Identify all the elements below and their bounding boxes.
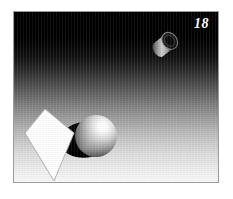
- scene-objects: [14, 12, 218, 182]
- sphere-bounce-light: [75, 115, 117, 157]
- figure-page: 18: [0, 0, 233, 199]
- plate-number: 18: [194, 17, 209, 31]
- cylinder-object: [153, 29, 181, 57]
- white-kite-polygon: [25, 109, 74, 181]
- figure-frame: 18: [13, 11, 219, 183]
- sphere-object: [75, 115, 117, 157]
- raytraced-scene: 18: [14, 12, 218, 182]
